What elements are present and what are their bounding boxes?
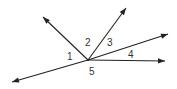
right-horizontal-arrowhead-icon xyxy=(158,58,165,63)
angle-diagram: 1 2 3 4 5 xyxy=(0,0,177,89)
right-horizontal-ray xyxy=(88,60,165,61)
lower-left-arrowhead-icon xyxy=(12,78,19,83)
angle-label-4: 4 xyxy=(128,49,134,60)
upper-right-ray xyxy=(88,8,126,60)
upper-left-ray xyxy=(43,17,88,60)
upper-right-arrowhead-icon xyxy=(120,8,126,15)
vertex-point xyxy=(87,59,89,61)
right-upper-arrowhead-icon xyxy=(161,34,168,39)
angle-label-1: 1 xyxy=(67,51,73,62)
angle-label-2: 2 xyxy=(85,37,91,48)
angle-label-5: 5 xyxy=(89,66,95,77)
lower-left-ray xyxy=(12,60,88,82)
angle-label-3: 3 xyxy=(107,37,113,48)
